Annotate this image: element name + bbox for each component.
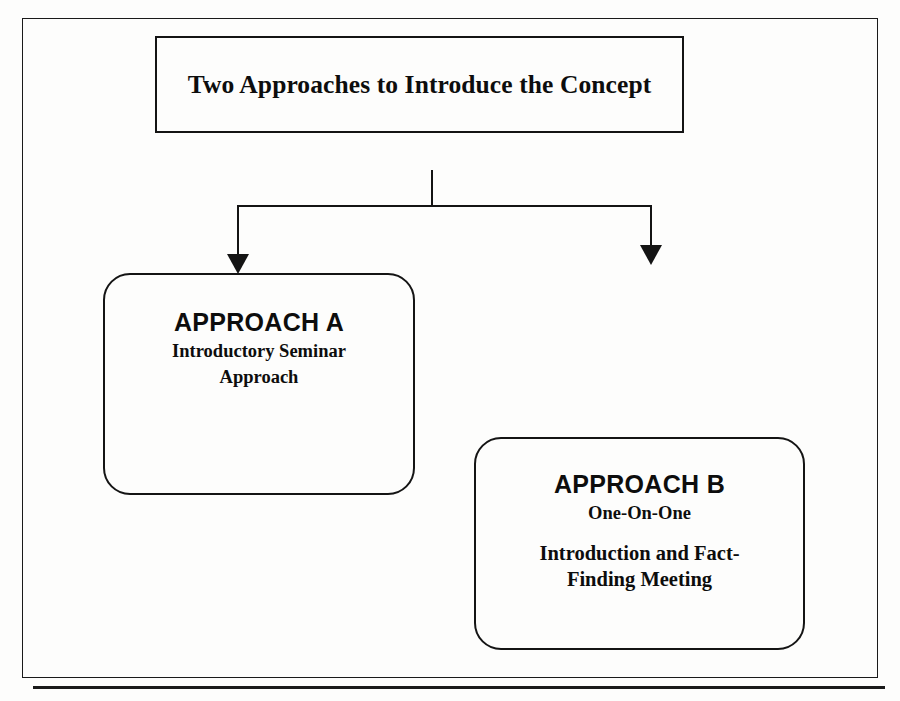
approach-b-detail-line1: Introduction and Fact- [490,540,789,567]
approach-b-box: APPROACH B One-On-One Introduction and F… [474,437,805,650]
approach-b-subtitle: One-On-One [490,502,789,526]
approach-a-heading: APPROACH A [119,308,399,336]
title-box: Two Approaches to Introduce the Concept [155,36,684,133]
branch-to-approach-b [650,205,652,246]
branch-to-approach-a [237,205,239,255]
diagram-canvas: Two Approaches to Introduce the Concept … [0,0,900,701]
approach-b-detail-line2: Finding Meeting [490,566,789,593]
bottom-divider-rule [33,686,885,689]
arrow-head-icon-left [227,254,249,274]
arrow-head-icon-right [640,245,662,265]
approach-a-subtitle-line1: Introductory Seminar [119,340,399,364]
title-text: Two Approaches to Introduce the Concept [188,69,652,101]
split-bar [237,205,652,207]
approach-b-heading: APPROACH B [490,470,789,498]
approach-a-box: APPROACH A Introductory Seminar Approach [103,273,415,495]
trunk-connector [431,170,433,207]
approach-a-subtitle-line2: Approach [119,366,399,390]
